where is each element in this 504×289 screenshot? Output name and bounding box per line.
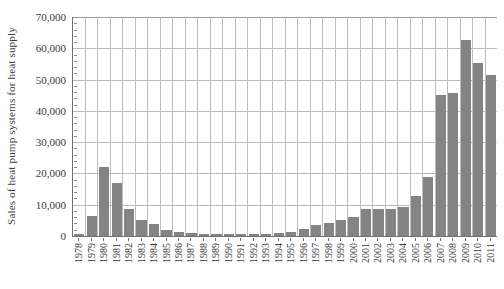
x-axis-tick-slot: 1992 bbox=[247, 238, 259, 288]
x-axis-tick-label: 2009 bbox=[459, 243, 470, 263]
x-axis-tick-label: 2008 bbox=[447, 243, 458, 263]
x-axis-tick-label: 1990 bbox=[222, 243, 233, 263]
x-axis-tick-labels: 1978197919801981198219831984198519861987… bbox=[72, 238, 496, 288]
x-axis-tick-label: 1980 bbox=[98, 243, 109, 263]
bar bbox=[161, 230, 171, 236]
bar bbox=[336, 220, 346, 236]
bar-slot bbox=[235, 17, 247, 236]
x-axis-tick-mark bbox=[240, 238, 241, 241]
x-axis-tick-slot: 2003 bbox=[384, 238, 396, 288]
x-axis-tick-slot: 1980 bbox=[97, 238, 109, 288]
bar bbox=[386, 209, 396, 236]
bar bbox=[186, 233, 196, 236]
x-axis-tick-mark bbox=[103, 238, 104, 241]
y-axis-title-wrapper: Sales of heat pump systems for heat supp… bbox=[0, 0, 22, 252]
bar bbox=[124, 209, 134, 236]
x-axis-tick-mark bbox=[290, 238, 291, 241]
x-axis-tick-label: 1991 bbox=[235, 243, 246, 263]
bar bbox=[174, 232, 184, 236]
bar bbox=[74, 234, 84, 236]
bar bbox=[236, 234, 246, 236]
x-axis-tick-slot: 1982 bbox=[122, 238, 134, 288]
y-axis-tick-label: 20,000 bbox=[36, 167, 66, 179]
x-axis-tick-label: 1996 bbox=[297, 243, 308, 263]
bar bbox=[411, 196, 421, 236]
x-axis-tick-label: 1995 bbox=[285, 243, 296, 263]
x-axis-tick-slot: 2009 bbox=[459, 238, 471, 288]
plot-area bbox=[72, 17, 497, 237]
x-axis-tick-label: 2006 bbox=[422, 243, 433, 263]
x-axis-tick-slot: 2000 bbox=[346, 238, 358, 288]
x-axis-tick-mark bbox=[141, 238, 142, 241]
x-axis-tick-mark bbox=[490, 238, 491, 241]
x-axis-tick-label: 1982 bbox=[123, 243, 134, 263]
x-axis-tick-slot: 2004 bbox=[396, 238, 408, 288]
x-axis-tick-label: 1998 bbox=[322, 243, 333, 263]
bar-slot bbox=[347, 17, 359, 236]
bar-slot bbox=[185, 17, 197, 236]
chart-figure: Sales of heat pump systems for heat supp… bbox=[0, 0, 504, 289]
x-axis-tick-label: 1983 bbox=[135, 243, 146, 263]
bar bbox=[361, 209, 371, 236]
bar-slot bbox=[273, 17, 285, 236]
x-axis-tick-mark bbox=[440, 238, 441, 241]
bar-slot bbox=[98, 17, 110, 236]
x-axis-tick-slot: 1978 bbox=[72, 238, 84, 288]
x-axis-tick-label: 2000 bbox=[347, 243, 358, 263]
bar-slot bbox=[110, 17, 122, 236]
x-axis-tick-mark bbox=[328, 238, 329, 241]
bar-slot bbox=[73, 17, 85, 236]
x-axis-tick-label: 2007 bbox=[434, 243, 445, 263]
x-axis-tick-label: 1979 bbox=[85, 243, 96, 263]
x-axis-tick-slot: 1987 bbox=[184, 238, 196, 288]
bar bbox=[311, 225, 321, 236]
x-axis-tick-label: 1981 bbox=[110, 243, 121, 263]
x-axis-tick-label: 1984 bbox=[148, 243, 159, 263]
bar bbox=[249, 234, 259, 236]
bar bbox=[461, 40, 471, 236]
bar-slot bbox=[285, 17, 297, 236]
x-axis-tick-mark bbox=[78, 238, 79, 241]
x-axis-tick-mark bbox=[303, 238, 304, 241]
x-axis-tick-slot: 1979 bbox=[84, 238, 96, 288]
x-axis-tick-mark bbox=[415, 238, 416, 241]
x-axis-tick-slot: 1990 bbox=[222, 238, 234, 288]
x-axis-tick-slot: 1996 bbox=[296, 238, 308, 288]
x-axis-tick-slot: 1985 bbox=[159, 238, 171, 288]
x-axis-tick-label: 1997 bbox=[310, 243, 321, 263]
x-axis-tick-mark bbox=[166, 238, 167, 241]
x-axis-tick-mark bbox=[365, 238, 366, 241]
bar-slot bbox=[372, 17, 384, 236]
bar-slot bbox=[248, 17, 260, 236]
bar bbox=[199, 234, 209, 236]
x-axis-tick-mark bbox=[340, 238, 341, 241]
x-axis-tick-label: 1999 bbox=[335, 243, 346, 263]
x-axis-tick-mark bbox=[377, 238, 378, 241]
bar bbox=[211, 234, 221, 236]
x-axis-tick-mark bbox=[116, 238, 117, 241]
x-axis-tick-mark bbox=[353, 238, 354, 241]
bar bbox=[99, 167, 109, 236]
bar-slot bbox=[85, 17, 97, 236]
y-axis-tick-label: 0 bbox=[61, 230, 67, 242]
bar bbox=[436, 95, 446, 236]
x-axis-tick-label: 1994 bbox=[272, 243, 283, 263]
y-axis-tick-label: 10,000 bbox=[36, 199, 66, 211]
bar-slot bbox=[410, 17, 422, 236]
x-axis-tick-slot: 1995 bbox=[284, 238, 296, 288]
bar-slot bbox=[173, 17, 185, 236]
bar bbox=[299, 229, 309, 237]
bar-slot bbox=[148, 17, 160, 236]
x-axis-tick-slot: 2011 bbox=[483, 238, 495, 288]
x-axis-tick-mark bbox=[153, 238, 154, 241]
bar bbox=[274, 233, 284, 236]
x-axis-tick-label: 2010 bbox=[472, 243, 483, 263]
y-axis-title: Sales of heat pump systems for heat supp… bbox=[5, 27, 17, 225]
x-axis-tick-mark bbox=[315, 238, 316, 241]
bar-slot bbox=[435, 17, 447, 236]
x-axis-tick-slot: 1989 bbox=[209, 238, 221, 288]
x-axis-tick-mark bbox=[265, 238, 266, 241]
bar-slot bbox=[123, 17, 135, 236]
x-axis-tick-mark bbox=[390, 238, 391, 241]
y-axis-tick-label: 50,000 bbox=[36, 74, 66, 86]
